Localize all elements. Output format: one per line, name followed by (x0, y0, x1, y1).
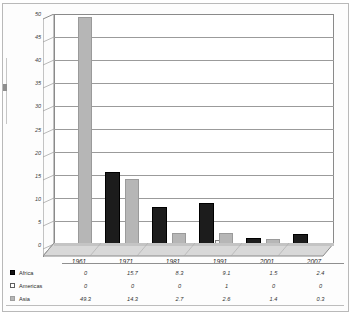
bar-asia-1961 (78, 17, 92, 245)
table-cell: 0 (297, 279, 344, 292)
y-tick-label: 25 (35, 127, 41, 133)
y-tick-label: 50 (35, 11, 41, 17)
scan-margin-line (6, 58, 7, 124)
y-tick-label: 30 (35, 103, 41, 109)
bars-layer (54, 14, 334, 245)
legend-item-americas[interactable]: Americas (10, 279, 62, 292)
y-tick-label: 15 (35, 173, 41, 179)
bar-africa-1971 (105, 172, 120, 245)
legend-label: Africa (19, 270, 33, 276)
table-cell: 2.7 (156, 292, 203, 305)
y-axis: 50 45 40 35 30 25 20 15 10 5 0 (16, 8, 41, 257)
legend-swatch-asia-icon (10, 296, 15, 301)
table-cell: 15.7 (109, 266, 156, 279)
column-chart: 50 45 40 35 30 25 20 15 10 5 0 (16, 8, 341, 256)
y-tick-label: 45 (35, 34, 41, 40)
y-tick-label: 35 (35, 80, 41, 86)
table-cell: 1.4 (250, 292, 297, 305)
y-tick-label: 20 (35, 150, 41, 156)
legend-label: Americas (19, 283, 42, 289)
table-cell: 0 (156, 279, 203, 292)
bar-africa-1991 (199, 203, 214, 245)
table-row: Africa 0 15.7 8.3 9.1 1.5 2.4 (6, 266, 344, 279)
legend-label: Asia (19, 296, 30, 302)
table-cell: 2.6 (203, 292, 250, 305)
table-cell: 8.3 (156, 266, 203, 279)
y-tick-label: 40 (35, 57, 41, 63)
chart-data-table: Africa 0 15.7 8.3 9.1 1.5 2.4 Americas 0… (6, 263, 344, 307)
scan-margin-mark (3, 84, 7, 91)
chart-floor (43, 243, 334, 257)
table-cell: 14.3 (109, 292, 156, 305)
legend-item-africa[interactable]: Africa (10, 266, 62, 279)
legend-item-asia[interactable]: Asia (10, 292, 62, 305)
table-row: Americas 0 0 0 1 0 0 (6, 279, 344, 292)
table-header-rule (62, 263, 344, 264)
table-cell: 1.5 (250, 266, 297, 279)
table-cell: 9.1 (203, 266, 250, 279)
table-cell: 0 (62, 279, 109, 292)
table-cell: 2.4 (297, 266, 344, 279)
bar-asia-1971 (125, 179, 139, 245)
bar-africa-1981 (152, 207, 167, 245)
y-tick-label: 5 (38, 219, 41, 225)
table-cell: 1 (203, 279, 250, 292)
legend-swatch-africa-icon (10, 270, 15, 275)
table-cell: 0 (250, 279, 297, 292)
table-bottom-rule (6, 305, 344, 306)
y-tick-label: 0 (38, 242, 41, 248)
table-row: Asia 49.3 14.3 2.7 2.6 1.4 0.3 (6, 292, 344, 305)
table-cell: 0 (62, 266, 109, 279)
y-tick-label: 10 (35, 196, 41, 202)
legend-swatch-americas-icon (10, 283, 15, 288)
table-cell: 0 (109, 279, 156, 292)
table-cell: 0.3 (297, 292, 344, 305)
table-cell: 49.3 (62, 292, 109, 305)
